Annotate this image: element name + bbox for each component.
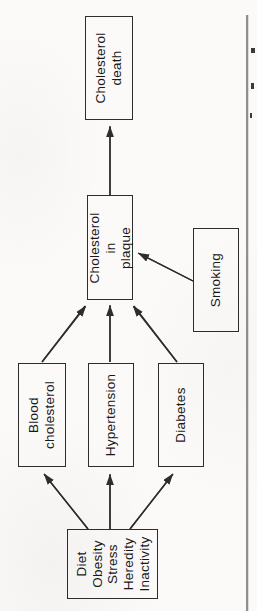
node-smoking: Smoking — [193, 228, 239, 332]
node-risk-factors: Diet Obesity Stress Heredity Inactivity — [67, 529, 158, 599]
node-cholesterol-death-label: Cholesterol death — [93, 32, 124, 103]
cut-text-fragment — [250, 113, 252, 118]
node-cholesterol-in-plaque: Cholesterol in plaque — [87, 195, 133, 300]
node-diabetes: Diabetes — [158, 363, 204, 467]
cut-text-fragment — [251, 83, 254, 89]
node-blood-cholesterol: Blood cholesterol — [18, 363, 66, 467]
node-risk-factors-label: Diet Obesity Stress Heredity Inactivity — [73, 536, 151, 591]
node-hypertension-label: Hypertension — [103, 374, 119, 457]
node-diabetes-label: Diabetes — [173, 387, 189, 442]
cut-text-fragment — [251, 48, 255, 53]
scanned-figure-page: Cholesterol death Cholesterol in plaque … — [0, 0, 257, 611]
node-cholesterol-death: Cholesterol death — [85, 16, 133, 120]
node-blood-cholesterol-label: Blood cholesterol — [26, 381, 57, 449]
node-hypertension: Hypertension — [88, 363, 134, 467]
node-cholesterol-in-plaque-label: Cholesterol in plaque — [87, 212, 134, 283]
node-smoking-label: Smoking — [208, 253, 224, 307]
page-column-rule — [246, 15, 248, 611]
